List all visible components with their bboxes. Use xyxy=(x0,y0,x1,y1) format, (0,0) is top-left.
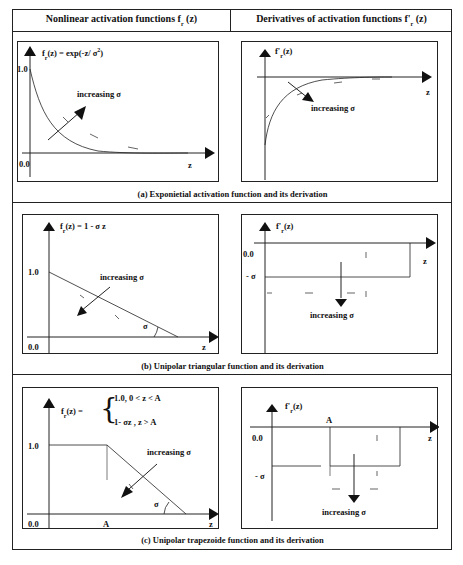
annotation: increasing σ xyxy=(77,90,121,99)
trapezoid-function-plot xyxy=(23,388,220,530)
x-axis-label: z xyxy=(202,343,206,352)
origin-label: 0.0 xyxy=(19,160,30,169)
section-divider-b-c xyxy=(12,374,452,375)
caption-b: (b) Unipolar triangular function and its… xyxy=(13,361,452,371)
header-divider xyxy=(12,31,452,32)
panel-b-triangular-derivative: f'r(z) 0.0 - σ z increasing σ xyxy=(241,214,438,354)
panel-a-exponential-function: fr(z) = exp(-z/ σ2) 1.0 0.0 z increasing… xyxy=(17,41,219,182)
caption-c: (c) Unipolar trapezoide function and its… xyxy=(13,535,452,545)
zero-tick-label: 0.0 xyxy=(243,250,254,259)
section-divider-a-b xyxy=(12,202,452,203)
x-axis-label: z xyxy=(423,257,427,266)
y-tick-label: 1.0 xyxy=(17,65,28,74)
panel-a-exponential-derivative: f'r(z) z increasing σ xyxy=(241,41,438,182)
header-right: Derivatives of activation functions f'r … xyxy=(231,13,452,24)
annotation: increasing σ xyxy=(310,311,354,320)
a-tick-label: A xyxy=(326,416,332,425)
panel-c-trapezoid-function: fr(z) = { 1.0, 0 < z < A 1- σz , z > A 1… xyxy=(22,387,219,529)
formula: fr(z) = exp(-z/ σ2) xyxy=(42,47,103,57)
x-axis-label: z xyxy=(188,161,192,170)
triangular-function-plot xyxy=(23,215,220,355)
zero-tick-label: 0.0 xyxy=(252,434,263,443)
formula: f'r(z) xyxy=(285,402,302,411)
header-left: Nonlinear activation functions fr (z) xyxy=(13,13,230,24)
neg-sigma-tick-label: - σ xyxy=(255,472,265,481)
panel-b-triangular-function: fr(z) = 1 - σ z 1.0 0.0 z σ increasing σ xyxy=(22,214,219,354)
origin-label: 0.0 xyxy=(28,343,39,352)
formula: f'r(z) xyxy=(275,47,292,56)
x-axis-label: z xyxy=(426,88,430,97)
y-tick-label: 1.0 xyxy=(28,268,39,277)
panel-c-trapezoid-derivative: f'r(z) A 0.0 - σ z increasing σ xyxy=(241,387,438,529)
formula: fr(z) = 1 - σ z xyxy=(60,222,106,231)
angle-label: σ xyxy=(143,322,148,331)
a-tick-label: A xyxy=(103,520,109,529)
x-axis-label: z xyxy=(428,434,432,443)
header-right-title: Derivatives of activation functions f xyxy=(256,13,408,24)
annotation: increasing σ xyxy=(100,273,144,282)
formula: fr(z) = xyxy=(61,407,83,416)
x-axis-label: z xyxy=(209,520,213,529)
case-1: 1.0, 0 < z < A xyxy=(114,394,161,403)
annotation: increasing σ xyxy=(311,104,355,113)
annotation: increasing σ xyxy=(322,508,366,517)
header-left-title: Nonlinear activation functions f xyxy=(46,13,181,24)
case-2: 1- σz , z > A xyxy=(114,418,157,427)
angle-label: σ xyxy=(154,500,159,509)
triangular-derivative-plot xyxy=(242,215,439,355)
y-tick-label: 1.0 xyxy=(28,442,39,451)
caption-a: (a) Exponietial activation function and … xyxy=(13,189,452,199)
neg-sigma-tick-label: - σ xyxy=(246,272,256,281)
annotation: increasing σ xyxy=(147,448,191,457)
origin-label: 0.0 xyxy=(28,520,39,529)
formula: f'r(z) xyxy=(276,222,293,231)
